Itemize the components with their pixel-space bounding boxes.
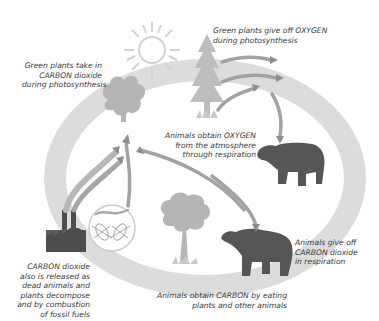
- label-line: dead animals and: [14, 281, 90, 291]
- bear-top-icon: [257, 143, 324, 186]
- label-line: Green plants give off OXYGEN: [213, 26, 327, 36]
- label-plants-give-oxygen: Green plants give off OXYGEN during phot…: [213, 26, 327, 45]
- sun-icon: [124, 22, 180, 78]
- label-line: plants and other animals: [148, 301, 287, 311]
- label-line: Animals obtain CARBON by eating: [148, 291, 287, 301]
- label-line: through respiration: [160, 150, 256, 160]
- label-line: Animals give off: [295, 238, 358, 248]
- factory-icon: [46, 210, 86, 252]
- label-line: also is released as: [14, 272, 90, 282]
- label-line: during photosynthesis: [22, 80, 102, 90]
- label-line: of fossil fuels: [14, 310, 90, 320]
- label-line: CARBON dioxide: [22, 71, 102, 81]
- label-line: Green plants take in: [22, 61, 102, 71]
- label-carbon-released: CARBON dioxide also is released as dead …: [14, 262, 90, 320]
- microorganisms-circle-icon: [89, 205, 135, 251]
- label-line: CARBON dioxide: [14, 262, 90, 272]
- carbon-oxygen-cycle-diagram: Green plants take in CARBON dioxide duri…: [0, 0, 379, 321]
- label-animals-obtain-carbon: Animals obtain CARBON by eating plants a…: [148, 291, 287, 310]
- label-line: Animals obtain OXYGEN: [160, 131, 256, 141]
- label-animals-give-carbon: Animals give off CARBON dioxide in respi…: [295, 238, 358, 267]
- label-line: and by combustion: [14, 300, 90, 310]
- label-line: CARBON dioxide: [295, 248, 358, 258]
- label-animals-obtain-oxygen: Animals obtain OXYGEN from the atmospher…: [160, 131, 256, 160]
- label-plants-take-carbon: Green plants take in CARBON dioxide duri…: [22, 61, 102, 90]
- label-line: plants decompose: [14, 291, 90, 301]
- tree-bottom-icon: [161, 193, 210, 264]
- label-line: during photosynthesis: [213, 36, 327, 46]
- label-line: in respiration: [295, 257, 358, 267]
- label-line: from the atmosphere: [160, 141, 256, 151]
